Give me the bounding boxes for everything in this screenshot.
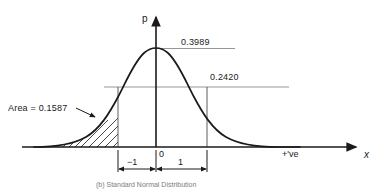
area-leader-arrow [76,108,95,117]
distribution-plot [0,0,381,190]
figure-caption: (b) Standard Normal Distribution [96,181,196,188]
area-annotation-label: Area = 0.1587 [8,104,67,113]
tick-label-plus-one: 1 [178,158,183,167]
peak-value-label: 0.3989 [181,38,210,47]
normal-distribution-figure: Area = 0.1587 0.3989 0.2420 p x +'ve 0 −… [0,0,381,190]
x-axis-label: x [364,150,369,160]
p-axis-label: p [142,14,148,24]
sigma-value-label: 0.2420 [210,73,239,82]
normal-curve [34,48,300,147]
positive-direction-label: +'ve [282,150,298,159]
tick-label-zero: 0 [159,150,164,159]
tick-label-minus-one: −1 [127,158,137,167]
